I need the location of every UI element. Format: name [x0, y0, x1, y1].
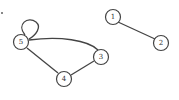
node-3-label: 3	[99, 53, 103, 61]
node-4-label: 4	[62, 75, 67, 83]
graph-diagram: 1 2 3 4 5	[0, 0, 179, 100]
nodes: 1 2 3 4 5	[14, 10, 169, 87]
node-5: 5	[14, 35, 29, 50]
edge-5-4	[27, 48, 58, 73]
stray-mark	[1, 12, 3, 14]
node-4: 4	[57, 72, 72, 87]
edges	[22, 20, 155, 75]
node-1: 1	[106, 10, 121, 25]
node-3: 3	[94, 50, 109, 65]
node-2-label: 2	[159, 39, 163, 47]
node-5-label: 5	[19, 38, 23, 46]
edge-4-3	[71, 61, 94, 75]
edge-5-3	[29, 38, 98, 50]
edge-1-2	[118, 22, 155, 39]
node-1-label: 1	[111, 13, 115, 21]
node-2: 2	[154, 36, 169, 51]
